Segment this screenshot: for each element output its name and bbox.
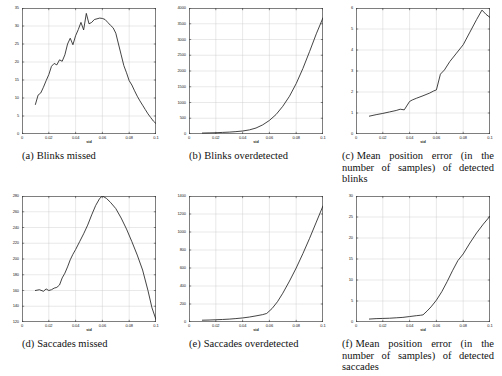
panel-e-y-tick-label: 600 — [180, 266, 186, 270]
panel-d-y-tick-label: 200 — [13, 257, 19, 261]
panel-b-y-tick-label: 3000 — [178, 38, 187, 42]
panel-b-chart-svg — [189, 8, 323, 134]
panel-b-y-axis-labels: 05001000150020002500300035004000 — [167, 8, 188, 134]
panel-a-plot — [22, 8, 156, 134]
panel-a-chart-svg — [22, 8, 156, 134]
panel-a-y-axis-labels: 05101520253035 — [0, 8, 21, 134]
panel-c-caption-label: (c) — [342, 150, 354, 161]
panel-d-y-tick-label: 120 — [13, 320, 19, 324]
panel-b-caption-text: Blinks overdetected — [204, 150, 288, 161]
panel-b-caption-label: (b) — [189, 150, 201, 161]
panel-c-y-tick-label: 3 — [351, 69, 353, 73]
panel-c-plot — [356, 8, 490, 134]
panel-c-y-tick-label: 5 — [351, 27, 353, 31]
panel-b-y-tick-label: 4000 — [178, 6, 187, 10]
panel-f-y-tick-label: 5 — [351, 299, 353, 303]
panel-e-caption: (e)Saccades overdetected — [175, 338, 341, 350]
panel-c-y-tick-label: 1 — [351, 111, 353, 115]
panel-f-y-tick-label: 25 — [349, 215, 353, 219]
panel-a-y-tick-label: 15 — [15, 78, 19, 82]
panel-d-caption-text: Saccades missed — [37, 338, 107, 349]
panel-e-y-tick-label: 1000 — [178, 230, 187, 234]
panel-d-x-axis-title: std — [22, 328, 156, 332]
panel-f-caption-text: Mean position error (in the number of sa… — [342, 338, 494, 372]
figure-row-top: 05101520253035 00.020.040.060.080.1 std … — [0, 0, 502, 188]
panel-f-plot — [356, 196, 490, 322]
panel-f-x-axis-title: std — [356, 328, 490, 332]
panel-a-y-tick-label: 25 — [15, 42, 19, 46]
panel-a-y-tick-label: 35 — [15, 6, 19, 10]
panel-c-x-axis-title: std — [356, 140, 490, 144]
panel-f-caption-label: (f) — [342, 338, 353, 349]
panel-f: 051015202530 00.020.040.060.080.1 std (f… — [334, 188, 501, 376]
panel-b-y-tick-label: 1000 — [178, 101, 187, 105]
panel-b: 05001000150020002500300035004000 00.020.… — [167, 0, 334, 188]
panel-b-y-tick-label: 500 — [180, 116, 186, 120]
panel-d-caption-label: (d) — [22, 338, 34, 349]
panel-c-caption-text: Mean position error (in the number of sa… — [342, 150, 494, 184]
panel-d-y-tick-label: 140 — [13, 304, 19, 308]
panel-c-y-tick-label: 6 — [351, 6, 353, 10]
panel-f-y-tick-label: 10 — [349, 278, 353, 282]
panel-a-y-tick-label: 10 — [15, 96, 19, 100]
panel-b-y-tick-label: 0 — [184, 132, 186, 136]
panel-c-y-axis-labels: 0123456 — [334, 8, 355, 134]
panel-c-chart-svg — [356, 8, 490, 134]
figure-panel-grid: 05101520253035 00.020.040.060.080.1 std … — [0, 0, 502, 376]
panel-f-y-axis-labels: 051015202530 — [334, 196, 355, 322]
panel-d-chart-svg — [22, 196, 156, 322]
panel-e-chart-svg — [189, 196, 323, 322]
panel-e-x-axis-title: std — [189, 328, 323, 332]
panel-a-caption-label: (a) — [22, 150, 34, 161]
panel-f-y-tick-label: 20 — [349, 236, 353, 240]
panel-d-y-tick-label: 240 — [13, 226, 19, 230]
panel-e-y-axis-labels: 0200400600800100012001400 — [167, 196, 188, 322]
panel-a-y-tick-label: 20 — [15, 60, 19, 64]
panel-e-y-tick-label: 200 — [180, 302, 186, 306]
panel-a-y-tick-label: 30 — [15, 24, 19, 28]
panel-e-y-tick-label: 1200 — [178, 212, 187, 216]
figure-row-bottom: 120140160180200220240260280 00.020.040.0… — [0, 188, 502, 376]
panel-b-y-tick-label: 2500 — [178, 53, 187, 57]
panel-f-chart-svg — [356, 196, 490, 322]
panel-e: 0200400600800100012001400 00.020.040.060… — [167, 188, 334, 376]
panel-d-y-tick-label: 280 — [13, 194, 19, 198]
panel-b-plot — [189, 8, 323, 134]
panel-a-caption: (a)Blinks missed — [8, 150, 174, 162]
panel-c: 0123456 00.020.040.060.080.1 std (c)Mean… — [334, 0, 501, 188]
panel-b-y-tick-label: 2000 — [178, 69, 187, 73]
panel-e-caption-label: (e) — [189, 338, 201, 349]
panel-e-y-tick-label: 400 — [180, 284, 186, 288]
panel-d-y-tick-label: 220 — [13, 241, 19, 245]
panel-f-caption: (f)Mean position error (in the number of… — [342, 338, 494, 373]
panel-f-y-tick-label: 0 — [351, 320, 353, 324]
panel-b-y-tick-label: 1500 — [178, 85, 187, 89]
panel-a-y-tick-label: 0 — [17, 132, 19, 136]
panel-f-y-tick-label: 30 — [349, 194, 353, 198]
panel-d-y-tick-label: 260 — [13, 210, 19, 214]
panel-d-y-axis-labels: 120140160180200220240260280 — [0, 196, 21, 322]
panel-e-y-tick-label: 1400 — [178, 194, 187, 198]
panel-c-caption: (c)Mean position error (in the number of… — [342, 150, 494, 185]
panel-f-y-tick-label: 15 — [349, 257, 353, 261]
panel-c-y-tick-label: 0 — [351, 132, 353, 136]
panel-c-y-tick-label: 2 — [351, 90, 353, 94]
panel-a-caption-text: Blinks missed — [37, 150, 96, 161]
panel-d-plot — [22, 196, 156, 322]
panel-b-caption: (b)Blinks overdetected — [175, 150, 341, 162]
panel-a: 05101520253035 00.020.040.060.080.1 std … — [0, 0, 167, 188]
panel-b-x-axis-title: std — [189, 140, 323, 144]
panel-e-y-tick-label: 800 — [180, 248, 186, 252]
panel-d: 120140160180200220240260280 00.020.040.0… — [0, 188, 167, 376]
panel-a-x-axis-title: std — [22, 140, 156, 144]
panel-a-y-tick-label: 5 — [17, 114, 19, 118]
panel-d-y-tick-label: 160 — [13, 289, 19, 293]
panel-c-y-tick-label: 4 — [351, 48, 353, 52]
panel-e-y-tick-label: 0 — [184, 320, 186, 324]
panel-b-y-tick-label: 3500 — [178, 22, 187, 26]
panel-d-y-tick-label: 180 — [13, 273, 19, 277]
panel-d-caption: (d)Saccades missed — [8, 338, 174, 350]
panel-e-caption-text: Saccades overdetected — [204, 338, 299, 349]
panel-e-plot — [189, 196, 323, 322]
